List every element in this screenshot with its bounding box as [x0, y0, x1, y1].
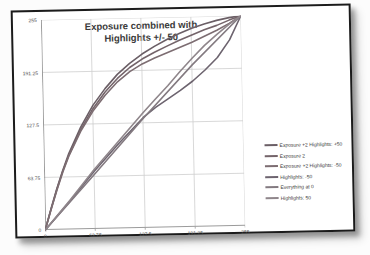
legend-swatch-line: [265, 144, 278, 146]
legend-swatch-line: [265, 165, 278, 167]
y-tick-label: 127.5: [15, 122, 39, 129]
legend-label: Highlights: -50: [280, 173, 312, 180]
legend-label: Highlights: 50: [281, 194, 311, 201]
x-tick-label: 127.5: [139, 231, 152, 237]
legend-label: Everything at 0: [280, 184, 313, 191]
page-background: { "page": { "background": "#fcfcfc" }, "…: [0, 0, 370, 255]
y-tick-label: 191.25: [14, 70, 38, 77]
x-tick-label: 191.25: [188, 230, 203, 236]
chart-frame: Exposure combined with Highlights +/- 50…: [11, 3, 356, 238]
legend-swatch-line: [265, 186, 278, 188]
y-axis-labels: 063.75127.5191.25255: [13, 6, 349, 13]
x-axis-labels: 063.75127.5191.25255: [13, 6, 349, 13]
legend-swatch-line: [265, 176, 278, 178]
x-tick-label: 0: [44, 233, 47, 239]
y-tick-label: 63.75: [16, 175, 40, 182]
chart-legend: Exposure +2 Highlights: +50Exposure 2Exp…: [264, 139, 343, 204]
y-tick-label: 0: [17, 227, 41, 234]
plot-area: [41, 16, 245, 232]
legend-label: Exposure 2: [280, 152, 305, 159]
y-tick-label: 255: [13, 17, 37, 24]
legend-item: Highlights: 50: [266, 191, 344, 203]
legend-label: Exposure +2 Highlights: -50: [280, 162, 342, 169]
legend-label: Exposure +2 Highlights: +50: [279, 141, 342, 148]
x-tick-label: 63.75: [89, 232, 102, 238]
x-tick-label: 255: [241, 229, 249, 235]
legend-swatch-line: [265, 155, 278, 157]
legend-swatch-line: [266, 197, 279, 199]
